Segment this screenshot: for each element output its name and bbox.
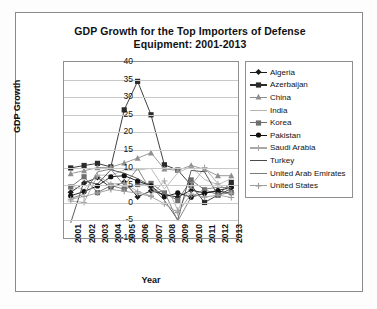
legend-item-label: Saudi Arabia [270, 143, 315, 152]
legend-item-china[interactable]: China [250, 91, 349, 104]
legend-marker-icon [250, 130, 267, 140]
legend-item-algeria[interactable]: Algeria [250, 66, 349, 79]
x-axis-tick-label: 2006 [140, 224, 150, 243]
gridline [64, 185, 238, 186]
legend-item-united-arab-emirates[interactable]: United Arab Emirates [250, 167, 349, 180]
legend-marker-icon [250, 105, 267, 115]
gridline [64, 97, 238, 98]
legend-item-india[interactable]: India [250, 104, 349, 117]
legend-item-korea[interactable]: Korea [250, 116, 349, 129]
legend-marker-icon [250, 143, 267, 153]
y-axis-tick-label: 35 [103, 74, 133, 84]
gridline [64, 80, 238, 81]
chart-legend: AlgeriaAzerbaijanChinaIndiaKoreaPakistan… [245, 61, 353, 198]
x-axis-tick-label: 2010 [194, 224, 204, 243]
x-axis-tick-label: 2013 [234, 224, 244, 243]
y-axis-tick-label: 0 [103, 197, 133, 207]
legend-item-label: Turkey [270, 156, 294, 165]
legend-marker-icon [250, 181, 267, 191]
legend-marker-icon [250, 118, 267, 128]
y-axis-tick-label: 30 [103, 91, 133, 101]
x-axis-tick-label: 2001 [73, 224, 83, 243]
x-axis-tick-label: 2011 [207, 225, 217, 243]
chart-title-line-2: Equipment: 2001-2013 [44, 38, 336, 51]
x-axis-tick-label: 2012 [220, 224, 230, 243]
x-axis-tick-label: 2007 [154, 224, 164, 243]
x-axis-tick-label: 2003 [100, 224, 110, 243]
legend-item-label: Azerbaijan [270, 80, 308, 89]
legend-item-azerbaijan[interactable]: Azerbaijan [250, 79, 349, 92]
legend-marker-icon [250, 92, 267, 102]
legend-item-label: United States [270, 181, 318, 190]
legend-item-label: Algeria [270, 68, 295, 77]
chart-title: GDP Growth for the Top Importers of Defe… [44, 25, 336, 50]
gridline [64, 132, 238, 133]
gridline [64, 150, 238, 151]
legend-item-label: United Arab Emirates [270, 169, 346, 178]
plot-area [63, 61, 239, 239]
x-axis-label: Year [63, 275, 239, 285]
legend-marker-icon [250, 155, 267, 165]
legend-item-label: India [270, 106, 287, 115]
y-axis-label: GDP Growth [12, 80, 22, 133]
y-axis-tick-label: 20 [103, 126, 133, 136]
y-axis-tick-label: -5 [103, 214, 133, 224]
legend-item-label: Pakistan [270, 131, 301, 140]
legend-marker-icon [250, 168, 267, 178]
y-axis-tick-label: 25 [103, 109, 133, 119]
x-axis-tick-label: 2002 [87, 224, 97, 243]
legend-marker-icon [250, 67, 267, 77]
gridline [64, 220, 238, 221]
y-axis-tick-label: 15 [103, 144, 133, 154]
y-axis-tick-label: 40 [103, 56, 133, 66]
x-axis-tick-label: 2005 [127, 224, 137, 243]
y-axis-tick-label: 10 [103, 162, 133, 172]
legend-item-label: Korea [270, 118, 291, 127]
gridline [64, 168, 238, 169]
legend-item-label: China [270, 93, 291, 102]
y-axis-tick-label: 5 [103, 179, 133, 189]
legend-item-saudi-arabia[interactable]: Saudi Arabia [250, 142, 349, 155]
legend-marker-icon [250, 80, 267, 90]
legend-item-pakistan[interactable]: Pakistan [250, 129, 349, 142]
legend-item-turkey[interactable]: Turkey [250, 154, 349, 167]
x-axis-tick-label: 2009 [180, 224, 190, 243]
gridline [64, 115, 238, 116]
chart-title-line-1: GDP Growth for the Top Importers of Defe… [44, 25, 336, 38]
chart-figure: GDP Growth for the Top Importers of Defe… [15, 12, 363, 292]
x-axis-tick-label: 2008 [167, 224, 177, 243]
gridline [64, 203, 238, 204]
x-axis-tick-label: 2004 [113, 224, 123, 243]
legend-item-united-states[interactable]: United States [250, 179, 349, 192]
